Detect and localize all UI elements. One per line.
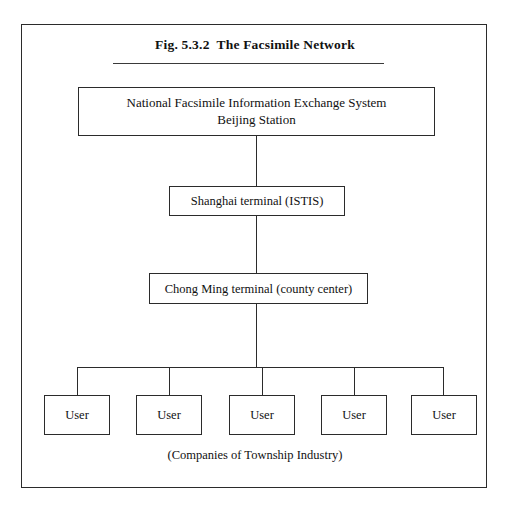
node-national-facsimile-information-exchange-system: National Facsimile Information Exchange …	[78, 87, 435, 136]
node-shanghai-terminal: Shanghai terminal (ISTIS)	[169, 186, 345, 216]
figure-title: Fig. 5.3.2 The Facsimile Network	[22, 37, 488, 53]
connector-chong-ming-to-user-bus	[256, 304, 257, 367]
connector-root-to-shanghai	[256, 136, 257, 186]
node-user-3: User	[229, 395, 295, 435]
node-user-2: User	[136, 395, 202, 435]
connector-shanghai-to-chong-ming	[256, 216, 257, 273]
connector-bus-to-user-4	[354, 367, 355, 395]
node-user-1: User	[44, 395, 110, 435]
connector-bus-to-user-3	[262, 367, 263, 395]
figure-page: Fig. 5.3.2 The Facsimile Network Nationa…	[0, 0, 508, 506]
title-underline-rule	[113, 63, 384, 64]
figure-caption: (Companies of Township Industry)	[22, 448, 488, 463]
connector-bus-to-user-1	[77, 367, 78, 395]
connector-bus-to-user-5	[443, 367, 444, 395]
figure-border: Fig. 5.3.2 The Facsimile Network Nationa…	[21, 24, 487, 488]
node-user-5: User	[411, 395, 477, 435]
user-bus-line	[77, 367, 443, 368]
node-chong-ming-terminal: Chong Ming terminal (county center)	[149, 273, 368, 304]
connector-bus-to-user-2	[169, 367, 170, 395]
node-user-4: User	[321, 395, 387, 435]
